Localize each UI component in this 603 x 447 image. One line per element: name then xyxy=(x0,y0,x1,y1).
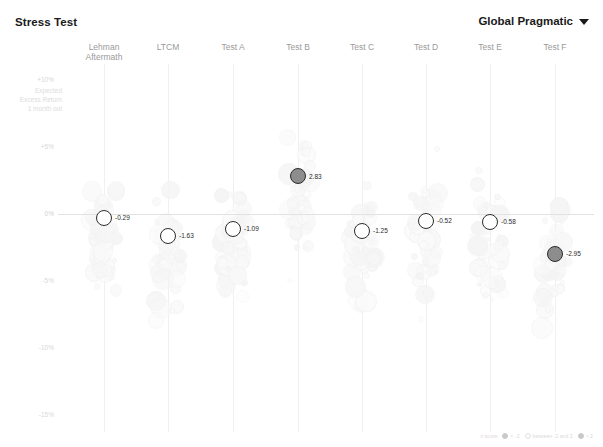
header-bar: Stress Test Global Pragmatic xyxy=(0,0,603,34)
y-axis-tick-minus15: -15% xyxy=(10,411,54,418)
y-axis-tick-plus10: +10% xyxy=(10,76,54,83)
stress-test-dashboard: Stress Test Global Pragmatic LehmanAfter… xyxy=(0,0,603,447)
data-point-test-c[interactable] xyxy=(354,223,370,239)
data-point-label-test-d: -0.52 xyxy=(437,217,452,224)
scatter-point xyxy=(279,129,296,146)
scatter-point xyxy=(533,288,553,308)
scatter-point xyxy=(228,266,246,284)
legend-swatch-neutral xyxy=(525,433,531,439)
column-header-test-f[interactable]: Test F xyxy=(510,42,600,52)
scatter-point xyxy=(152,197,161,206)
scatter-point xyxy=(94,283,101,290)
column-header-line-1: Aftermath xyxy=(59,52,149,62)
data-point-label-test-a: -1.09 xyxy=(244,225,259,232)
data-point-test-d[interactable] xyxy=(418,213,434,229)
legend-label-2: > 2 xyxy=(586,433,593,439)
scatter-point xyxy=(490,297,494,301)
scatter-point xyxy=(531,317,552,338)
scatter-point xyxy=(352,246,359,253)
scatter-point xyxy=(93,241,114,262)
legend-item-2: > 2 xyxy=(578,433,593,439)
scatter-point xyxy=(112,258,117,263)
scatter-point xyxy=(498,261,507,270)
scatter-point xyxy=(109,232,123,246)
scatter-point xyxy=(169,308,175,314)
chevron-down-icon xyxy=(579,19,589,25)
scatter-point xyxy=(302,240,314,252)
data-point-lehman-aftermath[interactable] xyxy=(96,210,112,226)
scatter-point xyxy=(362,181,372,191)
column-header-line-0: Test F xyxy=(510,42,600,52)
scatter-point xyxy=(482,292,489,299)
scatter-point xyxy=(470,177,485,192)
scatter-point xyxy=(418,316,425,323)
legend-label-0: < -2 xyxy=(510,433,519,439)
y-axis-caption-line-3: 1 month out xyxy=(0,104,62,113)
data-point-label-lehman-aftermath: -0.29 xyxy=(115,214,130,221)
portfolio-selector[interactable]: Global Pragmatic xyxy=(478,15,589,27)
y-axis-caption-line-1: Expected xyxy=(0,86,62,95)
scatter-point xyxy=(556,265,566,275)
legend: z-score < -2 between -2 and 2 > 2 xyxy=(480,433,593,439)
scatter-point xyxy=(560,221,564,225)
legend-item-0: < -2 xyxy=(502,433,519,439)
scatter-point xyxy=(303,190,312,199)
scatter-point xyxy=(411,253,418,260)
y-axis-caption: Expected Excess Return 1 month out xyxy=(0,86,62,113)
scatter-point xyxy=(94,231,106,243)
scatter-point xyxy=(368,237,377,246)
scatter-point xyxy=(477,282,482,287)
data-point-test-b[interactable] xyxy=(290,168,306,184)
legend-title: z-score xyxy=(480,433,497,439)
portfolio-selector-label: Global Pragmatic xyxy=(478,15,573,27)
scatter-point xyxy=(287,278,292,283)
scatter-point xyxy=(236,290,249,303)
y-axis-tick-plus5: +5% xyxy=(10,143,54,150)
scatter-point xyxy=(347,220,355,228)
scatter-point xyxy=(110,284,122,296)
data-point-label-ltcm: -1.63 xyxy=(179,232,194,239)
zero-reference-line xyxy=(58,214,594,215)
chart-canvas: LehmanAftermathLTCMTest ATest BTest CTes… xyxy=(0,34,603,447)
scatter-point xyxy=(214,188,229,203)
scatter-point xyxy=(467,236,488,257)
scatter-point xyxy=(474,265,491,282)
scatter-point xyxy=(427,267,437,277)
data-point-label-test-f: -2.95 xyxy=(566,250,581,257)
legend-swatch-positive xyxy=(578,433,584,439)
scatter-point xyxy=(294,244,300,250)
scatter-point xyxy=(345,276,366,297)
scatter-point xyxy=(494,279,500,285)
y-axis-caption-line-2: Excess Return xyxy=(0,95,62,104)
scatter-point xyxy=(289,228,301,240)
scatter-point xyxy=(421,270,426,275)
data-point-label-test-b: 2.83 xyxy=(309,173,322,180)
scatter-point xyxy=(475,167,483,175)
data-point-ltcm[interactable] xyxy=(160,228,176,244)
y-axis-tick-0: 0% xyxy=(10,210,54,217)
scatter-point xyxy=(559,260,564,265)
data-point-test-f[interactable] xyxy=(547,246,563,262)
scatter-point xyxy=(148,312,164,328)
scatter-point xyxy=(434,146,440,152)
scatter-point xyxy=(542,217,549,224)
data-point-test-e[interactable] xyxy=(482,214,498,230)
scatter-point xyxy=(158,259,169,270)
data-point-label-test-c: -1.25 xyxy=(373,227,388,234)
scatter-point xyxy=(161,181,179,199)
scatter-point xyxy=(421,186,428,193)
data-point-label-test-e: -0.58 xyxy=(501,218,516,225)
legend-item-1: between -2 and 2 xyxy=(525,433,573,439)
y-axis-tick-minus5: -5% xyxy=(10,277,54,284)
legend-swatch-negative xyxy=(502,433,508,439)
scatter-point xyxy=(108,181,125,198)
data-point-test-a[interactable] xyxy=(225,221,241,237)
scatter-point xyxy=(217,257,228,268)
scatter-point xyxy=(302,147,312,157)
scatter-point xyxy=(92,262,108,278)
legend-label-1: between -2 and 2 xyxy=(533,433,573,439)
y-axis-tick-minus10: -10% xyxy=(10,344,54,351)
scatter-point xyxy=(422,249,441,268)
page-title: Stress Test xyxy=(15,16,77,28)
